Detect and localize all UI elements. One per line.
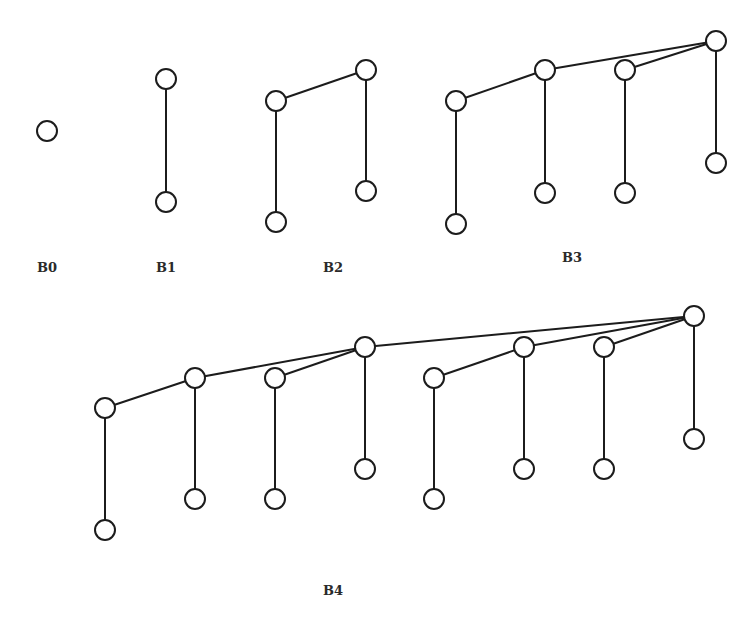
tree-node — [265, 489, 285, 509]
tree-edge — [105, 378, 195, 408]
tree-node — [706, 153, 726, 173]
tree-node — [266, 212, 286, 232]
tree-b1: B1 — [156, 69, 176, 275]
tree-node — [615, 183, 635, 203]
tree-edge — [625, 41, 716, 70]
tree-node — [265, 368, 285, 388]
tree-node — [424, 489, 444, 509]
tree-node — [37, 121, 57, 141]
nodes — [37, 121, 57, 141]
tree-node — [185, 489, 205, 509]
tree-label: B2 — [323, 260, 343, 275]
tree-node — [355, 459, 375, 479]
nodes — [95, 306, 704, 540]
tree-node — [514, 459, 534, 479]
tree-b4: B4 — [95, 306, 704, 598]
tree-node — [355, 337, 375, 357]
tree-label: B0 — [37, 260, 57, 275]
tree-node — [684, 429, 704, 449]
tree-node — [535, 183, 555, 203]
tree-edge — [434, 347, 524, 378]
tree-node — [266, 91, 286, 111]
tree-node — [95, 520, 115, 540]
tree-node — [356, 60, 376, 80]
tree-node — [615, 60, 635, 80]
tree-label: B3 — [562, 250, 582, 265]
tree-b2: B2 — [266, 60, 376, 275]
tree-node — [684, 306, 704, 326]
tree-node — [185, 368, 205, 388]
tree-node — [535, 60, 555, 80]
tree-edge — [275, 347, 365, 378]
tree-node — [156, 69, 176, 89]
tree-node — [706, 31, 726, 51]
tree-b3: B3 — [446, 31, 726, 265]
tree-node — [594, 337, 614, 357]
tree-node — [446, 91, 466, 111]
tree-label: B4 — [323, 583, 343, 598]
nodes — [446, 31, 726, 234]
tree-node — [514, 337, 534, 357]
tree-label: B1 — [156, 260, 176, 275]
tree-node — [95, 398, 115, 418]
tree-edge — [276, 70, 366, 101]
tree-b0: B0 — [37, 121, 57, 275]
tree-node — [156, 192, 176, 212]
tree-edge — [456, 70, 545, 101]
tree-node — [446, 214, 466, 234]
edges — [276, 70, 366, 222]
tree-node — [594, 459, 614, 479]
binomial-trees-diagram: B0 B1 B2 B3 B4 — [0, 0, 752, 618]
tree-node — [424, 368, 444, 388]
tree-node — [356, 181, 376, 201]
edges — [456, 41, 716, 224]
